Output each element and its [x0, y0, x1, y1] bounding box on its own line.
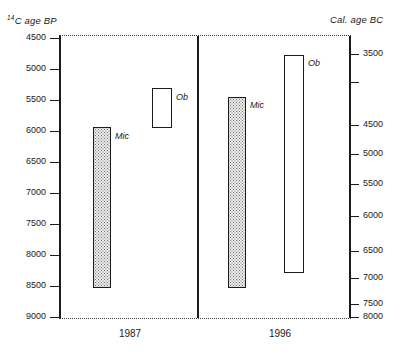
right-tick-label: 6000 [363, 210, 383, 220]
right-tick-mark [349, 154, 359, 155]
group-divider-spine [197, 36, 199, 318]
left-tick-label: 7000 [0, 187, 46, 197]
left-tick-label: 6000 [0, 125, 46, 135]
left-tick-mark [50, 193, 60, 194]
left-axis-caption-text: C age BP [15, 15, 57, 26]
right-tick-mark [349, 304, 359, 305]
bar-label-ob-1996: Ob [308, 58, 320, 68]
right-axis-spine [349, 36, 351, 318]
left-tick-label: 9000 [0, 311, 46, 321]
top-dotted-rule [59, 35, 351, 36]
right-tick-label: 7500 [363, 298, 383, 308]
left-tick-label: 7500 [0, 218, 46, 228]
right-tick-mark [349, 278, 359, 279]
left-axis-caption: 14C age BP [7, 14, 57, 26]
left-tick-label: 4500 [0, 32, 46, 42]
right-tick-mark [349, 251, 359, 252]
bar-label-mic-1987: Mic [115, 131, 129, 141]
left-axis-caption-superscript: 14 [7, 14, 15, 21]
left-tick-mark [50, 69, 60, 70]
left-tick-mark [50, 317, 60, 318]
right-tick-mark [349, 125, 359, 126]
right-tick-mark [349, 216, 359, 217]
right-tick-label: 7000 [363, 272, 383, 282]
radiocarbon-range-chart: 14C age BP Cal. age BC 4500 5000 5500 60… [0, 0, 409, 356]
left-tick-label: 8000 [0, 249, 46, 259]
right-tick-label: 8000 [363, 311, 383, 321]
left-tick-label: 5500 [0, 94, 46, 104]
left-tick-mark [50, 38, 60, 39]
left-tick-mark [50, 255, 60, 256]
bar-ob-1987[interactable] [152, 88, 172, 128]
right-tick-label: 5500 [363, 178, 383, 188]
right-tick-mark [349, 184, 359, 185]
right-tick-mark [349, 82, 359, 83]
left-axis-spine [59, 36, 61, 318]
right-tick-label: 6500 [363, 245, 383, 255]
left-tick-mark [50, 286, 60, 287]
bar-mic-1996[interactable] [228, 97, 246, 288]
bar-label-mic-1996: Mic [250, 100, 264, 110]
right-axis-caption: Cal. age BC [330, 14, 383, 25]
group-label-1987: 1987 [100, 328, 160, 339]
left-tick-mark [50, 131, 60, 132]
bar-ob-1996[interactable] [284, 55, 304, 273]
left-tick-mark [50, 162, 60, 163]
right-tick-mark [349, 54, 359, 55]
left-tick-label: 5000 [0, 63, 46, 73]
bar-mic-1987[interactable] [93, 127, 111, 288]
left-tick-mark [50, 100, 60, 101]
group-label-1996: 1996 [250, 328, 310, 339]
left-tick-label: 8500 [0, 280, 46, 290]
bar-label-ob-1987: Ob [176, 92, 188, 102]
plot-area: 4500 5000 5500 6000 6500 7000 7500 8000 … [60, 36, 350, 318]
left-tick-label: 6500 [0, 156, 46, 166]
right-tick-mark [349, 317, 359, 318]
bottom-dotted-rule [59, 318, 351, 319]
right-tick-label: 4500 [363, 119, 383, 129]
right-tick-label: 5000 [363, 148, 383, 158]
left-tick-mark [50, 224, 60, 225]
right-tick-label: 3500 [363, 48, 383, 58]
